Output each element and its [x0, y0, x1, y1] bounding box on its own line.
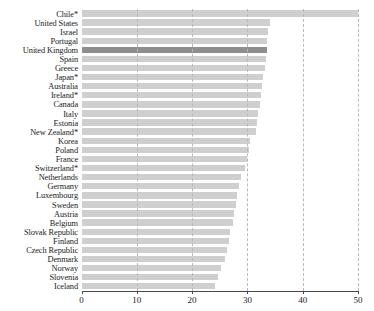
bar [82, 147, 249, 153]
category-label: Chile* [56, 9, 78, 18]
category-label: Luxembourg [36, 191, 78, 200]
category-label: Greece [55, 64, 78, 73]
bar-row [82, 145, 359, 154]
x-tick-0 [82, 291, 83, 294]
bar-row [82, 173, 359, 182]
category-label-row: Austria [0, 209, 78, 218]
category-label-row: Czech Republic [0, 245, 78, 254]
category-label-row: Finland [0, 236, 78, 245]
category-label: Slovak Republic [24, 227, 78, 236]
bar [82, 74, 264, 80]
bar-row [82, 227, 359, 236]
bar [82, 247, 228, 253]
category-label-row: Israel [0, 27, 78, 36]
bar [82, 83, 262, 89]
bar-row [82, 73, 359, 82]
category-label-row: Slovenia [0, 273, 78, 282]
bar [82, 156, 247, 162]
bar-row [82, 127, 359, 136]
gridline-30 [247, 9, 248, 291]
bar [82, 183, 239, 189]
x-tick-40 [303, 291, 304, 294]
x-tick-50 [358, 291, 359, 294]
category-label-row: Switzerland* [0, 164, 78, 173]
category-label-row: Korea [0, 136, 78, 145]
bar-row [82, 155, 359, 164]
x-tick-30 [247, 291, 248, 294]
category-label: Israel [60, 27, 78, 36]
bar-row [82, 109, 359, 118]
bar-row [82, 82, 359, 91]
category-label-row: Denmark [0, 255, 78, 264]
category-label: Switzerland* [35, 164, 78, 173]
category-label: Estonia [54, 118, 78, 127]
bar [82, 174, 241, 180]
gridline-40 [303, 9, 304, 291]
x-tick-20 [192, 291, 193, 294]
bar [82, 238, 229, 244]
x-tick-10 [137, 291, 138, 294]
bar [82, 283, 216, 289]
category-label: Finland [53, 236, 78, 245]
bar [82, 28, 269, 34]
bar-row [82, 236, 359, 245]
bar-row [82, 209, 359, 218]
category-axis-labels: Chile*United StatesIsraelPortugalUnited … [0, 9, 78, 291]
category-label: Austria [54, 209, 78, 218]
category-label-row: United Kingdom [0, 45, 78, 54]
category-label-row: Canada [0, 100, 78, 109]
category-label-row: Japan* [0, 73, 78, 82]
category-label: Belgium [50, 218, 78, 227]
bar [82, 165, 246, 171]
bar [82, 19, 270, 25]
bar-row [82, 218, 359, 227]
bar [82, 10, 359, 16]
bar [82, 128, 256, 134]
category-label: United States [34, 18, 78, 27]
category-label: United Kingdom [23, 45, 78, 54]
bar-row [82, 164, 359, 173]
x-tick-label-20: 20 [188, 295, 197, 305]
x-tick-label-0: 0 [79, 295, 84, 305]
category-label: Czech Republic [26, 245, 78, 254]
category-label-row: Greece [0, 64, 78, 73]
category-label: France [56, 155, 78, 164]
category-label-row: Australia [0, 82, 78, 91]
x-axis-line [82, 291, 359, 292]
category-label-row: Iceland [0, 282, 78, 291]
category-label: Norway [52, 264, 78, 273]
category-label-row: Poland [0, 145, 78, 154]
category-label: Netherlands [39, 173, 78, 182]
x-tick-label-40: 40 [298, 295, 307, 305]
gridline-50 [358, 9, 359, 291]
category-label: Sweden [52, 200, 78, 209]
category-label-row: Sweden [0, 200, 78, 209]
category-label-row: Belgium [0, 218, 78, 227]
bar [82, 192, 237, 198]
bar-row [82, 27, 359, 36]
bar-row [82, 118, 359, 127]
category-label-row: New Zealand* [0, 127, 78, 136]
horizontal-bar-chart: Chile*United StatesIsraelPortugalUnited … [0, 0, 374, 311]
category-label: Australia [48, 82, 78, 91]
bar-row [82, 273, 359, 282]
bar [82, 138, 250, 144]
category-label-row: Estonia [0, 118, 78, 127]
category-label: Canada [53, 100, 78, 109]
bar-row [82, 36, 359, 45]
bar-row [82, 200, 359, 209]
bar [82, 274, 219, 280]
category-label: Slovenia [49, 273, 78, 282]
category-label: Spain [59, 55, 78, 64]
bar-row [82, 255, 359, 264]
bar-row [82, 100, 359, 109]
bar-row [82, 18, 359, 27]
category-label: Denmark [48, 255, 78, 264]
category-label: Germany [48, 182, 78, 191]
category-label-row: Slovak Republic [0, 227, 78, 236]
bar [82, 110, 259, 116]
category-label-row: Portugal [0, 36, 78, 45]
bar [82, 265, 222, 271]
bar [82, 219, 234, 225]
bar [82, 256, 225, 262]
